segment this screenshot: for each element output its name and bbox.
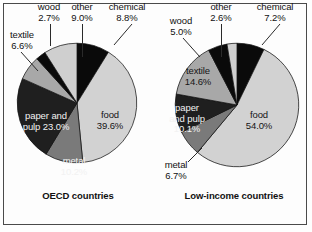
label-oecd-food-name: food [88,110,132,121]
chart-panel-low-income: other 2.6% chemical 7.2% wood 5.0% texti… [156,0,312,232]
label-oecd-paper-line2: pulp 23.0% [11,122,81,133]
label-low-other-name: other [200,2,242,13]
figure-root: wood 2.7% other 9.0% chemical 8.8% texti… [0,0,312,232]
label-low-textile-value: 14.6% [174,77,222,88]
label-low-textile: textile 14.6% [174,66,222,87]
label-low-food-name: food [236,110,282,121]
label-oecd-other: other 9.0% [61,2,103,23]
label-low-paper-and-pulp: paper and pulp 10.1% [161,103,213,135]
label-oecd-metal-name: metal [52,156,96,167]
chart-panel-oecd: wood 2.7% other 9.0% chemical 8.8% texti… [0,0,156,232]
label-oecd-chemical-value: 8.8% [100,13,154,24]
leader-line-oecd-other [82,24,83,57]
label-low-paper-line3: 10.1% [161,124,213,135]
label-low-wood-value: 5.0% [160,27,202,38]
label-oecd-textile: textile 6.6% [1,30,43,51]
label-oecd-chemical: chemical 8.8% [100,2,154,23]
label-oecd-food-value: 39.6% [88,121,132,132]
label-low-chemical: chemical 7.2% [248,2,302,23]
leader-line-low-wood [182,38,204,58]
label-low-textile-name: textile [174,66,222,77]
label-low-chemical-name: chemical [248,2,302,13]
leader-line-oecd-textile [20,52,42,72]
label-oecd-textile-value: 6.6% [1,41,43,52]
chart-title-low-income: Low-income countries [156,190,312,201]
label-low-other-value: 2.6% [200,13,242,24]
label-low-food-value: 54.0% [236,121,282,132]
label-low-paper-line1: paper [161,103,213,114]
leader-line-low-other [221,24,222,57]
leader-line-low-chemical [260,24,284,46]
label-oecd-food: food 39.6% [88,110,132,131]
chart-title-oecd: OECD countries [0,190,156,201]
label-low-wood: wood 5.0% [160,16,202,37]
label-oecd-paper-and-pulp: paper and pulp 23.0% [11,111,81,132]
label-low-chemical-value: 7.2% [248,13,302,24]
label-oecd-textile-name: textile [1,30,43,41]
leader-line-oecd-wood [50,24,51,46]
label-oecd-paper-line1: paper and [11,111,81,122]
label-oecd-other-value: 9.0% [61,13,103,24]
leader-line-low-metal [186,148,204,164]
label-low-other: other 2.6% [200,2,242,23]
label-oecd-metal: metal 10.2% [52,156,96,177]
label-oecd-other-name: other [61,2,103,13]
label-oecd-chemical-name: chemical [100,2,154,13]
label-oecd-metal-value: 10.2% [52,167,96,178]
label-low-food: food 54.0% [236,110,282,131]
label-low-wood-name: wood [160,16,202,27]
leader-line-oecd-chemical [112,24,136,46]
label-low-metal-value: 6.7% [156,171,196,182]
